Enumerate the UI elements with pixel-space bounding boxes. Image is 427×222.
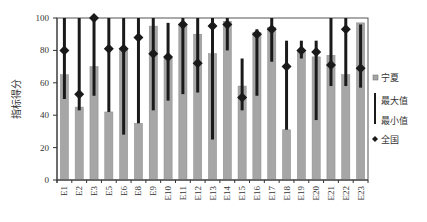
x-tick-label: E13 — [208, 186, 218, 201]
bar-ningxia-E2 — [75, 107, 83, 180]
x-tick-label: E1 — [59, 186, 69, 196]
x-tick-label: E3 — [89, 186, 99, 196]
x-tick-label: E14 — [222, 186, 232, 201]
marker-national-E3 — [89, 13, 99, 23]
legend-label-ningxia: 宁夏 — [381, 72, 399, 83]
x-tick-label: E19 — [296, 186, 306, 201]
y-tick-label: 20 — [40, 143, 50, 153]
x-tick-label: E23 — [356, 186, 366, 201]
bar-ningxia-E5 — [105, 112, 113, 180]
bar-ningxia-E18 — [282, 130, 290, 180]
x-tick-label: E22 — [341, 186, 351, 201]
x-tick-label: E17 — [267, 186, 277, 201]
legend: 宁夏最大值最小值全国 — [372, 72, 408, 145]
x-tick-label: E5 — [104, 186, 114, 196]
marker-national-E18 — [282, 62, 292, 72]
legend-label-min: 最小值 — [381, 115, 408, 126]
legend-square-icon — [373, 75, 378, 80]
marker-national-E13 — [208, 21, 218, 31]
x-tick-label: E18 — [282, 186, 292, 201]
y-tick-label: 60 — [40, 78, 50, 88]
x-tick-label: E8 — [133, 186, 143, 196]
x-tick-label: E2 — [74, 186, 84, 196]
marker-national-E8 — [133, 32, 143, 42]
marker-national-E1 — [59, 45, 69, 55]
x-tick-label: E10 — [163, 186, 173, 201]
marker-national-E22 — [341, 24, 351, 34]
y-tick-label: 40 — [40, 110, 50, 120]
bar-ningxia-E22 — [342, 75, 350, 180]
marker-national-E20 — [311, 47, 321, 57]
marker-national-E2 — [74, 89, 84, 99]
x-tick-label: E12 — [193, 186, 203, 201]
marker-national-E5 — [104, 44, 114, 54]
legend-diamond-icon — [372, 136, 378, 142]
x-tick-label: E15 — [237, 186, 247, 201]
x-tick-label: E9 — [148, 186, 158, 196]
x-tick-label: E21 — [326, 186, 336, 201]
y-axis-title: 指标得分 — [10, 79, 22, 119]
y-tick-label: 100 — [36, 13, 50, 23]
chart: 020406080100 E1E2E3E5E6E8E9E10E11E12E13E… — [0, 0, 427, 222]
x-tick-label: E6 — [119, 186, 129, 196]
legend-label-max: 最大值 — [381, 95, 408, 106]
legend-label-national: 全国 — [381, 134, 399, 145]
bar-ningxia-E19 — [297, 50, 305, 180]
bar-ningxia-E8 — [134, 123, 142, 180]
y-tick-label: 80 — [40, 45, 50, 55]
x-tick-label: E11 — [178, 186, 188, 200]
x-tick-label: E20 — [311, 186, 321, 201]
y-tick-label: 0 — [45, 175, 50, 185]
x-tick-label: E16 — [252, 186, 262, 201]
